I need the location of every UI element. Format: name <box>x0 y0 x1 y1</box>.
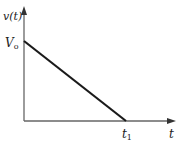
y-intercept-label: Vo <box>5 37 19 51</box>
y-axis-label: v(t) <box>3 11 22 22</box>
x-intercept-sub: 1 <box>127 133 132 142</box>
x-axis-arrow-icon <box>167 118 176 124</box>
x-axis <box>24 118 176 124</box>
y-intercept-main: V <box>5 36 14 50</box>
velocity-line <box>24 41 126 121</box>
y-intercept-sub: o <box>14 42 19 51</box>
x-intercept-label: t1 <box>122 128 132 142</box>
diagram-graphics <box>0 0 185 149</box>
x-axis-label: t <box>169 128 174 140</box>
y-axis <box>21 6 27 121</box>
velocity-time-diagram: v(t) Vo t1 t <box>0 0 185 149</box>
